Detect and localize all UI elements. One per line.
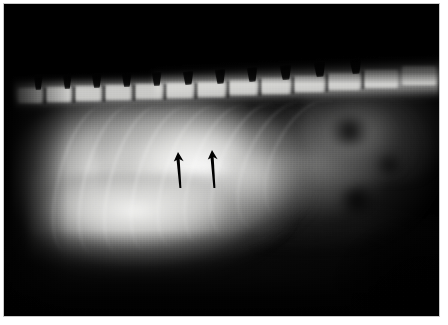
arrow-right	[203, 150, 221, 188]
vertebral-body	[402, 66, 436, 85]
intervertebral-disc-space	[164, 84, 166, 100]
rib	[144, 97, 247, 257]
gas-filled-viscus	[324, 116, 376, 146]
gas-filled-viscus	[372, 154, 406, 176]
vertebral-body	[18, 88, 42, 103]
intervertebral-disc-space	[195, 83, 197, 99]
vertebral-body	[261, 78, 290, 94]
rib	[222, 90, 336, 242]
radiograph-plate	[4, 4, 439, 316]
vertebral-body	[197, 82, 225, 97]
intervertebral-disc-space	[259, 79, 261, 96]
rib	[249, 88, 363, 233]
sublumbar-soft-tissue	[304, 82, 439, 182]
vertebral-body	[46, 87, 71, 102]
vertebral-body	[294, 76, 324, 92]
vertebral-body	[75, 86, 101, 101]
cranial-background	[4, 4, 68, 316]
vertebral-body	[105, 85, 131, 100]
intervertebral-disc-space	[227, 81, 229, 98]
rib	[117, 99, 216, 260]
intervertebral-disc-space	[133, 85, 135, 101]
vertebral-body	[166, 83, 193, 98]
intervertebral-disc-space	[44, 88, 46, 104]
vertebral-body	[364, 70, 398, 88]
rib	[41, 100, 130, 259]
film-base-fog	[4, 4, 439, 316]
soft-tissue-mass	[10, 96, 310, 281]
intervertebral-disc-space	[292, 77, 294, 94]
intervertebral-disc-space	[326, 74, 328, 92]
caudal-background	[304, 200, 439, 316]
gas-filled-viscus	[331, 180, 383, 221]
intervertebral-disc-space	[362, 71, 364, 89]
vertebral-body	[229, 80, 257, 95]
intervertebral-disc-space	[73, 87, 75, 103]
arrow-left	[169, 152, 187, 188]
vertebral-body	[135, 84, 162, 99]
radiograph-page	[0, 0, 448, 325]
ventral-soft-tissue	[28, 174, 293, 284]
intervertebral-disc-space	[103, 86, 105, 102]
caudal-abdomen-soft-tissue	[254, 100, 439, 250]
film-grain	[4, 4, 439, 316]
vertebral-body	[328, 73, 360, 90]
ventral-background	[4, 230, 439, 316]
rib	[66, 99, 157, 260]
diaphragm-margin	[230, 154, 380, 274]
